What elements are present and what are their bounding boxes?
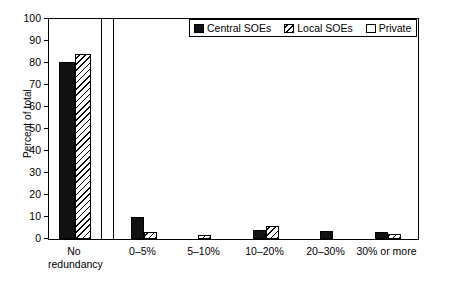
bar-group — [49, 19, 101, 239]
x-axis-label: 30% or more — [356, 245, 417, 258]
x-axis-label: 0–5% — [112, 245, 173, 258]
y-axis-tick-label: 20 — [29, 188, 41, 200]
bar-group-bars — [49, 19, 101, 239]
bar-local — [144, 232, 157, 239]
legend-label-local-soes: Local SOEs — [297, 22, 352, 34]
y-axis-tick-label: 70 — [29, 78, 41, 90]
bar-chart: Percent of total 0102030405060708090100 … — [0, 0, 452, 291]
y-axis-tick-label: 80 — [29, 56, 41, 68]
y-axis-tick-label: 40 — [29, 144, 41, 156]
bar-group — [296, 19, 357, 239]
bar-group — [235, 19, 296, 239]
bar-group-bars — [296, 19, 357, 239]
legend-item-central-soes: Central SOEs — [194, 22, 271, 34]
legend-label-private: Private — [379, 22, 412, 34]
x-axis-label: 20–30% — [295, 245, 356, 258]
bar-group-bars — [357, 19, 418, 239]
y-axis-tick-label: 90 — [29, 34, 41, 46]
bar-central — [131, 217, 144, 239]
bar-group — [113, 19, 174, 239]
bar-local — [75, 54, 91, 239]
legend-item-private: Private — [366, 22, 412, 34]
axis-break-line-left — [101, 19, 102, 239]
legend-label-central-soes: Central SOEs — [207, 22, 271, 34]
bar-group-bars — [235, 19, 296, 239]
bar-local — [266, 226, 279, 239]
y-axis-tick-label: 60 — [29, 100, 41, 112]
y-axis-tick-label: 50 — [29, 122, 41, 134]
x-axis-label: 10–20% — [234, 245, 295, 258]
y-axis-tick-label: 30 — [29, 166, 41, 178]
bar-central — [253, 230, 266, 239]
bar-group — [357, 19, 418, 239]
bar-central — [320, 231, 333, 239]
bar-central — [59, 62, 75, 239]
bar-group — [174, 19, 235, 239]
bar-group-bars — [174, 19, 235, 239]
x-axis-label: No redundancy — [48, 245, 100, 271]
legend-swatch-local-soes-icon — [284, 24, 294, 33]
bar-local — [388, 234, 401, 239]
y-axis-tick-label: 0 — [35, 232, 41, 244]
chart-legend: Central SOEs Local SOEs Private — [189, 19, 417, 37]
x-axis-label: 5–10% — [173, 245, 234, 258]
legend-swatch-private-icon — [366, 24, 376, 33]
bar-local — [198, 235, 211, 239]
plot-area: 0102030405060708090100 — [48, 18, 419, 240]
legend-swatch-central-soes-icon — [194, 24, 204, 33]
y-axis-tick-label: 10 — [29, 210, 41, 222]
bar-central — [375, 232, 388, 239]
y-axis-tick-label: 100 — [23, 12, 41, 24]
bar-group-bars — [113, 19, 174, 239]
legend-item-local-soes: Local SOEs — [284, 22, 352, 34]
